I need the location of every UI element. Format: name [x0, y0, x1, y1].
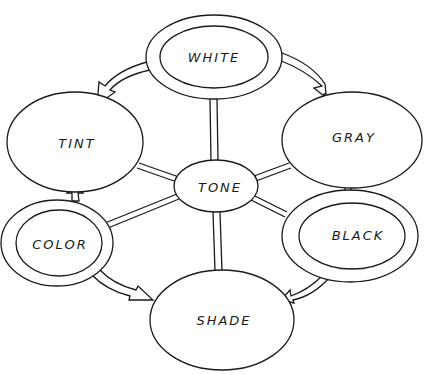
node-black-label: BLACK [332, 228, 385, 243]
connector-tone-shade [213, 212, 222, 271]
node-shade-label: SHADE [196, 313, 251, 328]
arrow-color-to-shade [92, 270, 153, 300]
node-gray-label: GRAY [332, 130, 376, 145]
diagram-svg: WHITE TINT GRAY TONE COLOR BLACK SHADE [0, 0, 430, 375]
connector-tone-white [210, 99, 218, 161]
connector-tone-tint [137, 163, 176, 181]
arrow-white-to-gray [279, 53, 326, 96]
node-tone: TONE [174, 160, 258, 212]
connector-tone-gray [254, 163, 291, 181]
node-black: BLACK [282, 190, 418, 282]
node-color: COLOR [1, 200, 113, 286]
node-white-label: WHITE [188, 50, 241, 65]
connector-tone-color [105, 194, 179, 228]
connector-tone-black [251, 195, 287, 217]
node-white: WHITE [146, 15, 282, 99]
node-shade: SHADE [150, 270, 294, 370]
node-tint: TINT [7, 92, 143, 192]
arrow-black-to-shade [281, 276, 330, 303]
node-gray: GRAY [282, 92, 422, 188]
node-tone-label: TONE [198, 180, 242, 195]
node-color-label: COLOR [32, 237, 87, 252]
node-tint-label: TINT [58, 136, 95, 151]
color-tone-diagram: WHITE TINT GRAY TONE COLOR BLACK SHADE [0, 0, 430, 375]
